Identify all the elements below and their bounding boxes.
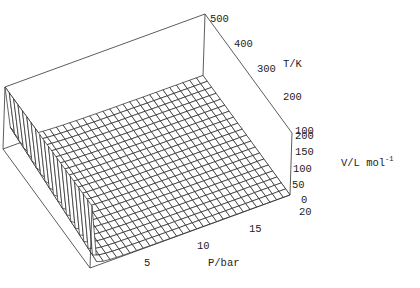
v-tick-200: 200 <box>295 130 314 142</box>
v-tick-0: 0 <box>301 194 307 206</box>
p-tick-15: 15 <box>249 223 262 235</box>
surface-plot: 500 400 300 200 100 T/K 200 150 100 50 0… <box>0 0 420 288</box>
p-axis-label: P/bar <box>208 257 240 269</box>
surface-mesh <box>5 75 290 261</box>
t-axis-label: T/K <box>283 58 303 70</box>
t-tick-200: 200 <box>283 91 302 103</box>
v-tick-150: 150 <box>295 146 314 158</box>
p-tick-10: 10 <box>197 240 210 252</box>
v-axis-label: V/L mol-1 <box>341 155 394 169</box>
t-tick-400: 400 <box>234 38 253 50</box>
v-tick-100: 100 <box>293 163 312 175</box>
p-tick-20: 20 <box>299 206 312 218</box>
v-tick-50: 50 <box>292 179 305 191</box>
t-tick-500: 500 <box>210 13 229 25</box>
t-tick-300: 300 <box>257 63 276 75</box>
p-tick-5: 5 <box>144 257 150 269</box>
